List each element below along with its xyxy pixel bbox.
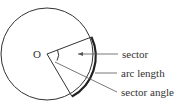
center-label: O — [33, 48, 41, 60]
sector-diagram: O sector arc length sector angle — [0, 0, 180, 110]
sector-pointer-arrowhead — [78, 52, 83, 56]
sector-angle-pointer — [55, 62, 117, 92]
arc-length-label: arc length — [121, 67, 165, 79]
sector-angle-label: sector angle — [121, 86, 174, 98]
angle-arc-icon — [57, 50, 59, 61]
radius-upper — [47, 37, 92, 54]
radius-lower — [47, 54, 72, 97]
sector-label: sector — [122, 48, 149, 60]
